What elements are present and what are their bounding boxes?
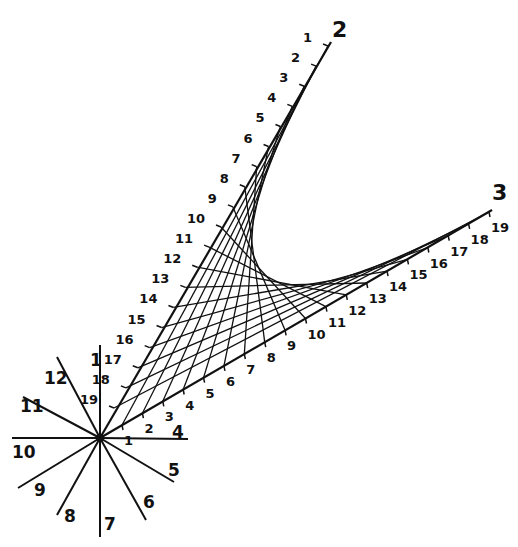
axis-3-tick-label: 14 (389, 279, 407, 294)
axis-lines (100, 42, 492, 438)
axis-3-tick-label: 7 (246, 362, 255, 377)
axis-3-tick-16 (428, 248, 429, 253)
axis-2-tick-label: 12 (163, 251, 181, 266)
axis-3-tick-label: 17 (450, 244, 468, 259)
axis-2-tick-label: 8 (220, 171, 229, 186)
axis-3-tick-label: 4 (185, 398, 194, 413)
axis-2-tick-17 (133, 366, 138, 368)
axis-2-tick-12 (192, 265, 197, 267)
axis-3-tick-3 (163, 401, 164, 406)
axis-3-tick-label: 2 (144, 421, 153, 436)
axis-2-name: 2 (332, 17, 347, 42)
string-line-19 (114, 212, 489, 408)
star-ray-6 (100, 438, 146, 520)
string-lines (114, 46, 489, 425)
star-label-11: 11 (20, 396, 44, 416)
axis-2-tick-label: 18 (92, 372, 110, 387)
star-label-4: 4 (172, 422, 184, 442)
star-label-1: 1 (90, 350, 102, 370)
axis-3-tick-18 (469, 224, 470, 229)
axis-2-tick-label: 6 (244, 131, 253, 146)
axis-3-tick-label: 15 (409, 267, 427, 282)
axis-2-tick-13 (180, 285, 185, 287)
axis-3-tick-11 (326, 307, 327, 312)
axis-3-tick-label: 5 (206, 386, 215, 401)
axis-2-tick-18 (121, 386, 126, 388)
center-point (96, 434, 104, 442)
axis-2-line (100, 42, 331, 438)
axis-3-tick-label: 1 (124, 433, 133, 448)
axis-3-name: 3 (492, 180, 507, 205)
axis-2-tick-label: 1 (303, 30, 312, 45)
star-label-7: 7 (104, 514, 116, 534)
axis-2-tick-label: 10 (187, 211, 205, 226)
star-label-6: 6 (143, 492, 155, 512)
axis-2-tick-19 (109, 406, 114, 408)
axis-2-tick-label: 11 (175, 231, 193, 246)
axis-3-tick-10 (306, 319, 307, 324)
axis-3-tick-6 (224, 366, 225, 371)
star-label-9: 9 (34, 480, 46, 500)
axis-3-tick-4 (183, 390, 184, 395)
axis-2-tick-15 (157, 326, 162, 328)
axis-3-tick-7 (244, 354, 245, 359)
string-line-10 (221, 227, 306, 319)
axis-3-tick-label: 8 (267, 350, 276, 365)
axis-2-tick-label: 2 (291, 50, 300, 65)
axis-2-tick-16 (145, 346, 150, 348)
tick-marks (109, 44, 490, 430)
axis-3-tick-15 (407, 259, 408, 264)
axis-2-tick-label: 17 (104, 352, 122, 367)
axis-3-tick-8 (265, 342, 266, 347)
axis-2-tick-label: 7 (232, 151, 241, 166)
axis-2-tick-4 (287, 104, 292, 106)
axis-3-tick-5 (204, 378, 205, 383)
axis-3-tick-label: 11 (328, 315, 346, 330)
axis-2-tick-label: 16 (116, 332, 134, 347)
axis-3-tick-19 (489, 212, 490, 217)
axis-2-tick-label: 15 (127, 312, 145, 327)
star-label-12: 12 (44, 368, 68, 388)
star-label-10: 10 (12, 442, 36, 462)
axis-3-line (100, 210, 492, 438)
star-ray-5 (100, 438, 174, 482)
star-label-5: 5 (168, 460, 180, 480)
axis-3-tick-9 (285, 330, 286, 335)
axis-2-tick-2 (311, 64, 316, 66)
axis-3-tick-1 (122, 425, 123, 430)
axis-2-tick-1 (323, 44, 328, 46)
axis-3-tick-2 (142, 413, 143, 418)
axis-3-tick-17 (448, 236, 449, 241)
axis-2-tick-label: 3 (279, 70, 288, 85)
axis-3-tick-14 (387, 271, 388, 276)
star-ray-8 (57, 438, 100, 515)
axis-2-tick-label: 9 (208, 191, 217, 206)
axis-2-tick-8 (240, 185, 245, 187)
axis-3-tick-label: 19 (491, 220, 509, 235)
axis-2-tick-3 (299, 84, 304, 86)
axis-2-tick-6 (264, 145, 269, 147)
axis-3-tick-label: 10 (308, 327, 326, 342)
axis-2-tick-5 (275, 124, 280, 126)
axis-3-tick-label: 13 (369, 291, 387, 306)
axis-3-tick-label: 3 (165, 409, 174, 424)
axis-3-tick-13 (367, 283, 368, 288)
curve-stitching-diagram: 1121110987654123456789101112131415161718… (0, 0, 518, 547)
axis-2-tick-10 (216, 225, 221, 227)
axis-2-tick-9 (228, 205, 233, 207)
axis-3-tick-label: 9 (287, 338, 296, 353)
axis-2-tick-7 (252, 165, 257, 167)
labels: 1121110987654123456789101112131415161718… (12, 17, 509, 534)
axis-2-tick-label: 13 (151, 271, 169, 286)
axis-3-tick-label: 12 (348, 303, 366, 318)
axis-2-tick-label: 19 (80, 392, 98, 407)
axis-3-tick-label: 16 (430, 256, 448, 271)
axis-3-tick-12 (346, 295, 347, 300)
axis-2-tick-11 (204, 245, 209, 247)
axis-3-tick-label: 18 (471, 232, 489, 247)
axis-2-tick-label: 4 (267, 90, 276, 105)
axis-2-tick-14 (168, 305, 173, 307)
axis-2-tick-label: 14 (139, 291, 157, 306)
string-line-4 (183, 106, 292, 389)
axis-3-tick-label: 6 (226, 374, 235, 389)
